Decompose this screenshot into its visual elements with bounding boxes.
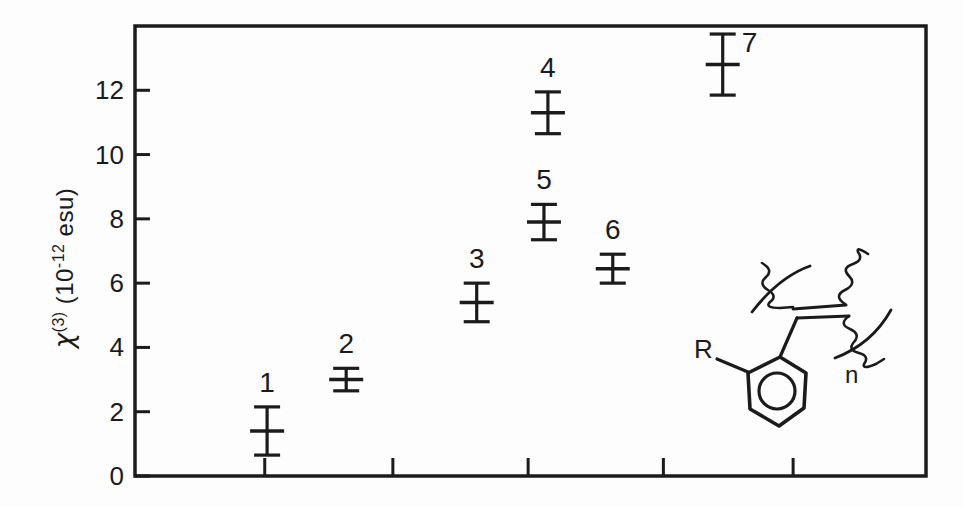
y-tick-label: 8 [110, 204, 124, 234]
point-label-5: 5 [536, 164, 552, 195]
y-tick-label: 0 [110, 461, 124, 491]
double-bond-upper [793, 305, 846, 309]
plot-frame [135, 26, 926, 476]
point-label-4: 4 [540, 52, 556, 83]
polymer-structure-inset [717, 249, 891, 426]
y-tick-label: 12 [95, 75, 124, 105]
bond-vinyl-to-ring [780, 318, 797, 357]
chi-order-superscript: (3) [50, 311, 67, 332]
double-bond-lower [797, 316, 849, 318]
chi-symbol: χ [49, 332, 79, 348]
units-text: esu) [51, 188, 78, 244]
units-open: (10 [51, 268, 78, 304]
benzene-ring [748, 357, 806, 426]
point-label-6: 6 [605, 214, 621, 245]
point-label-2: 2 [338, 328, 354, 359]
left-paren-arc [752, 266, 810, 312]
data-point-3: 3 [460, 243, 494, 322]
y-tick-label: 2 [110, 397, 124, 427]
bond-r-to-ring [717, 359, 748, 372]
r-group-label: R [694, 334, 713, 364]
data-point-5: 5 [527, 164, 561, 239]
units-exponent: -12 [50, 244, 67, 269]
data-point-2: 2 [329, 328, 363, 391]
data-point-7: 7 [706, 27, 758, 95]
point-label-1: 1 [259, 367, 275, 398]
data-point-4: 4 [531, 52, 565, 134]
repeat-n-label: n [845, 361, 858, 388]
point-label-7: 7 [742, 27, 758, 58]
y-tick-label: 10 [95, 140, 124, 170]
chart: 0246810121234567 R n [0, 0, 963, 507]
y-axis-label: χ(3)(10-12 esu) [49, 188, 79, 349]
data-point-1: 1 [250, 367, 284, 455]
benzene-aromatic-circle [759, 373, 795, 409]
y-tick-label: 6 [110, 268, 124, 298]
y-tick-label: 4 [110, 332, 124, 362]
figure-canvas: 0246810121234567 R n χ(3)(10-12 esu) [0, 0, 963, 507]
data-point-6: 6 [596, 214, 630, 283]
chain-squiggle-upper-right [839, 249, 868, 304]
point-label-3: 3 [469, 243, 485, 274]
